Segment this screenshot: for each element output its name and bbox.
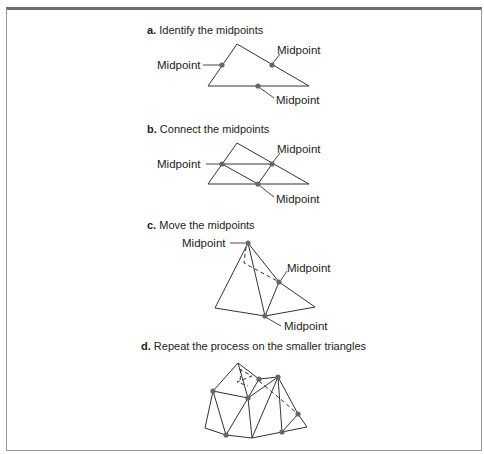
label-midpoint-bottom-a: Midpoint bbox=[276, 94, 320, 106]
label-midpoint-right-a: Midpoint bbox=[277, 44, 321, 56]
label-midpoint-right-b: Midpoint bbox=[277, 143, 321, 155]
midpoint-bottom-a bbox=[255, 83, 260, 88]
step-c-title: c. Move the midpoints bbox=[147, 219, 255, 231]
label-midpoint-top-c: Midpoint bbox=[182, 237, 226, 249]
step-b-title: b. Connect the midpoints bbox=[147, 123, 270, 135]
step-d: d. Repeat the process on the smaller tri… bbox=[141, 340, 367, 438]
label-midpoint-bottom-b: Midpoint bbox=[276, 193, 320, 205]
step-a: a. Identify the midpoints Midpoint Midpo… bbox=[147, 24, 321, 106]
step-b: b. Connect the midpoints Midpoint Midpoi… bbox=[147, 123, 321, 205]
label-midpoint-left-a: Midpoint bbox=[157, 59, 201, 71]
dashed-original-c bbox=[244, 247, 279, 282]
midpoint-displacement-figure: a. Identify the midpoints Midpoint Midpo… bbox=[0, 0, 484, 454]
step-d-title: d. Repeat the process on the smaller tri… bbox=[141, 340, 367, 352]
inner-triangle-b bbox=[222, 164, 272, 184]
step-c: c. Move the midpoints Midpoint Midpoint … bbox=[147, 219, 331, 332]
outer-shape-c bbox=[215, 243, 315, 316]
midpoint-right-a bbox=[269, 62, 274, 67]
label-midpoint-right-c: Midpoint bbox=[287, 262, 331, 274]
label-midpoint-left-b: Midpoint bbox=[157, 158, 201, 170]
step-a-title: a. Identify the midpoints bbox=[147, 24, 264, 36]
midpoint-left-a bbox=[219, 62, 224, 67]
label-midpoint-bottom-c: Midpoint bbox=[284, 320, 328, 332]
outer-mesh-d bbox=[205, 363, 307, 438]
